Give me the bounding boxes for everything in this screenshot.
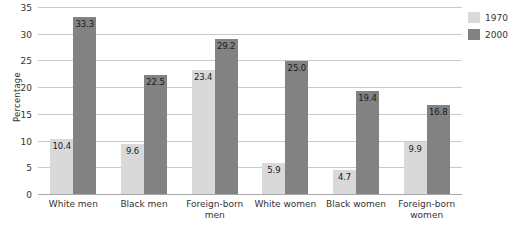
x-category-label: Black men (109, 199, 180, 221)
x-category-label-line: Foreign-born (179, 199, 250, 210)
bar-pair: 10.433.3 (50, 8, 96, 195)
y-tick-label: 30 (21, 30, 32, 40)
legend-item[interactable]: 1970 (468, 12, 508, 23)
x-category-label-line: Black men (109, 199, 180, 210)
y-tick-label: 15 (21, 110, 32, 120)
bar-groups: 10.433.39.622.523.429.25.925.04.719.49.9… (38, 8, 462, 195)
y-tick-label: 0 (26, 190, 32, 200)
bar-value-label: 22.5 (146, 77, 165, 87)
bar-value-label: 25.0 (288, 63, 307, 73)
bar[interactable]: 16.8 (427, 105, 450, 195)
bar[interactable]: 4.7 (333, 170, 356, 195)
x-category-label: Black women (321, 199, 392, 221)
bar[interactable]: 33.3 (73, 17, 96, 195)
x-category-label-line: White men (38, 199, 109, 210)
bar-chart: Percentage 05101520253035 10.433.39.622.… (0, 0, 520, 232)
legend-label: 2000 (485, 30, 508, 40)
x-axis-line (38, 194, 462, 195)
legend-swatch-icon (468, 29, 480, 40)
bar[interactable]: 9.9 (404, 142, 427, 195)
bar-group: 5.925.0 (250, 8, 321, 195)
x-category-label: White women (250, 199, 321, 221)
bar[interactable]: 9.6 (121, 144, 144, 195)
bar[interactable]: 10.4 (50, 139, 73, 195)
bar-pair: 23.429.2 (192, 8, 238, 195)
bar-group: 23.429.2 (179, 8, 250, 195)
bar-pair: 4.719.4 (333, 8, 379, 195)
bar[interactable]: 25.0 (285, 61, 308, 195)
bar-value-label: 19.4 (358, 93, 377, 103)
bar-group: 9.916.8 (391, 8, 462, 195)
bar-group: 9.622.5 (109, 8, 180, 195)
y-tick-label: 35 (21, 3, 32, 13)
bar[interactable]: 19.4 (356, 91, 379, 195)
y-tick-label: 5 (26, 163, 32, 173)
bar-group: 4.719.4 (321, 8, 392, 195)
x-axis-category-labels: White menBlack menForeign-bornmenWhite w… (38, 199, 462, 221)
x-category-label-line: Black women (321, 199, 392, 210)
bar-value-label: 9.9 (409, 144, 422, 154)
y-tick-label: 20 (21, 83, 32, 93)
bar-value-label: 10.4 (53, 141, 72, 151)
x-category-label-line: White women (250, 199, 321, 210)
bar-value-label: 5.9 (267, 165, 280, 175)
legend-item[interactable]: 2000 (468, 29, 508, 40)
bar[interactable]: 23.4 (192, 70, 215, 195)
bar-pair: 9.622.5 (121, 8, 167, 195)
bar-value-label: 16.8 (429, 107, 448, 117)
y-tick-label: 25 (21, 56, 32, 66)
bar-value-label: 23.4 (194, 72, 213, 82)
bar[interactable]: 22.5 (144, 75, 167, 195)
bar[interactable]: 29.2 (215, 39, 238, 195)
y-tick-label: 10 (21, 137, 32, 147)
legend: 19702000 (468, 12, 508, 46)
bar-pair: 9.916.8 (404, 8, 450, 195)
bar-value-label: 4.7 (338, 172, 351, 182)
bar-value-label: 29.2 (217, 41, 236, 51)
x-category-label: Foreign-bornwomen (391, 199, 462, 221)
legend-swatch-icon (468, 12, 480, 23)
x-category-label: Foreign-bornmen (179, 199, 250, 221)
x-category-label-line: women (391, 210, 462, 221)
x-category-label: White men (38, 199, 109, 221)
x-category-label-line: men (179, 210, 250, 221)
bar-group: 10.433.3 (38, 8, 109, 195)
plot-area: 05101520253035 10.433.39.622.523.429.25.… (38, 8, 462, 195)
bar-value-label: 9.6 (126, 146, 139, 156)
x-category-label-line: Foreign-born (391, 199, 462, 210)
bar-pair: 5.925.0 (262, 8, 308, 195)
bar-value-label: 33.3 (76, 19, 95, 29)
bar[interactable]: 5.9 (262, 163, 285, 195)
legend-label: 1970 (485, 13, 508, 23)
